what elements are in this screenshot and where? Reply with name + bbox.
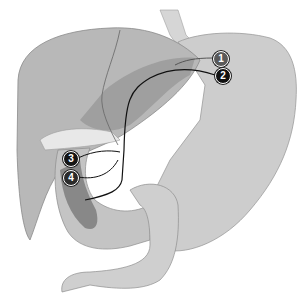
label-3: 3 [63, 151, 79, 167]
anatomy-svg [0, 0, 307, 304]
anatomy-illustration: 1 2 3 4 [0, 0, 307, 304]
label-1: 1 [213, 51, 229, 67]
label-2: 2 [215, 68, 231, 84]
label-4: 4 [63, 170, 79, 186]
